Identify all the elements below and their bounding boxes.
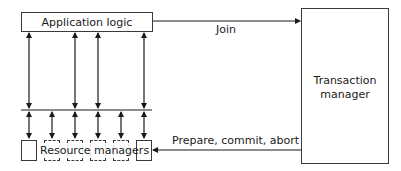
application-logic-label: Application logic: [22, 16, 152, 29]
lower-bidirectional-arrows: [29, 112, 144, 138]
resource-manager-box-1: [21, 140, 37, 161]
application-logic-box: Application logic: [21, 12, 153, 32]
transaction-manager-box: Transaction manager: [301, 8, 389, 164]
join-label: Join: [216, 23, 236, 36]
prepare-commit-abort-label: Prepare, commit, abort: [172, 134, 299, 147]
resource-managers-label: Resource managers: [40, 144, 132, 157]
diagram-canvas: Application logic Transaction manager Re…: [0, 0, 401, 171]
transaction-manager-label-line2: manager: [302, 88, 388, 101]
upper-bidirectional-arrows: [29, 33, 144, 108]
transaction-manager-label-line1: Transaction: [302, 74, 388, 87]
